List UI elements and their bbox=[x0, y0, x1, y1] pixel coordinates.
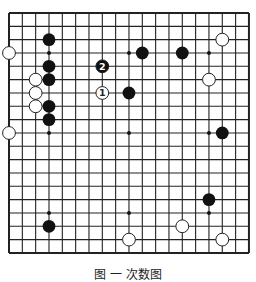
move-number: 2 bbox=[99, 61, 106, 72]
black-stone bbox=[216, 127, 229, 140]
black-stone bbox=[43, 100, 56, 113]
black-stone bbox=[43, 33, 56, 46]
white-stone bbox=[3, 47, 16, 60]
white-stone bbox=[216, 33, 229, 46]
star-point bbox=[207, 51, 211, 55]
white-stone bbox=[3, 127, 16, 140]
go-board: 12 bbox=[0, 0, 256, 262]
black-stone bbox=[123, 87, 136, 100]
star-point bbox=[207, 131, 211, 135]
star-point bbox=[47, 51, 51, 55]
black-stone bbox=[43, 220, 56, 233]
move-number: 1 bbox=[99, 87, 106, 98]
black-stone bbox=[43, 73, 56, 86]
star-point bbox=[207, 211, 211, 215]
white-stone bbox=[216, 233, 229, 246]
star-point bbox=[47, 131, 51, 135]
black-stone bbox=[43, 113, 56, 126]
white-stone bbox=[123, 233, 136, 246]
star-point bbox=[47, 211, 51, 215]
black-stone bbox=[176, 47, 189, 60]
black-stone bbox=[203, 193, 216, 206]
star-point bbox=[127, 131, 131, 135]
black-stone bbox=[136, 47, 149, 60]
black-stone bbox=[43, 60, 56, 73]
star-point bbox=[127, 51, 131, 55]
white-stone bbox=[29, 100, 42, 113]
white-stone bbox=[29, 73, 42, 86]
white-stone bbox=[29, 87, 42, 100]
figure-caption: 图 一 次数图 bbox=[0, 268, 256, 282]
white-stone bbox=[176, 220, 189, 233]
star-point bbox=[127, 211, 131, 215]
white-stone bbox=[203, 73, 216, 86]
